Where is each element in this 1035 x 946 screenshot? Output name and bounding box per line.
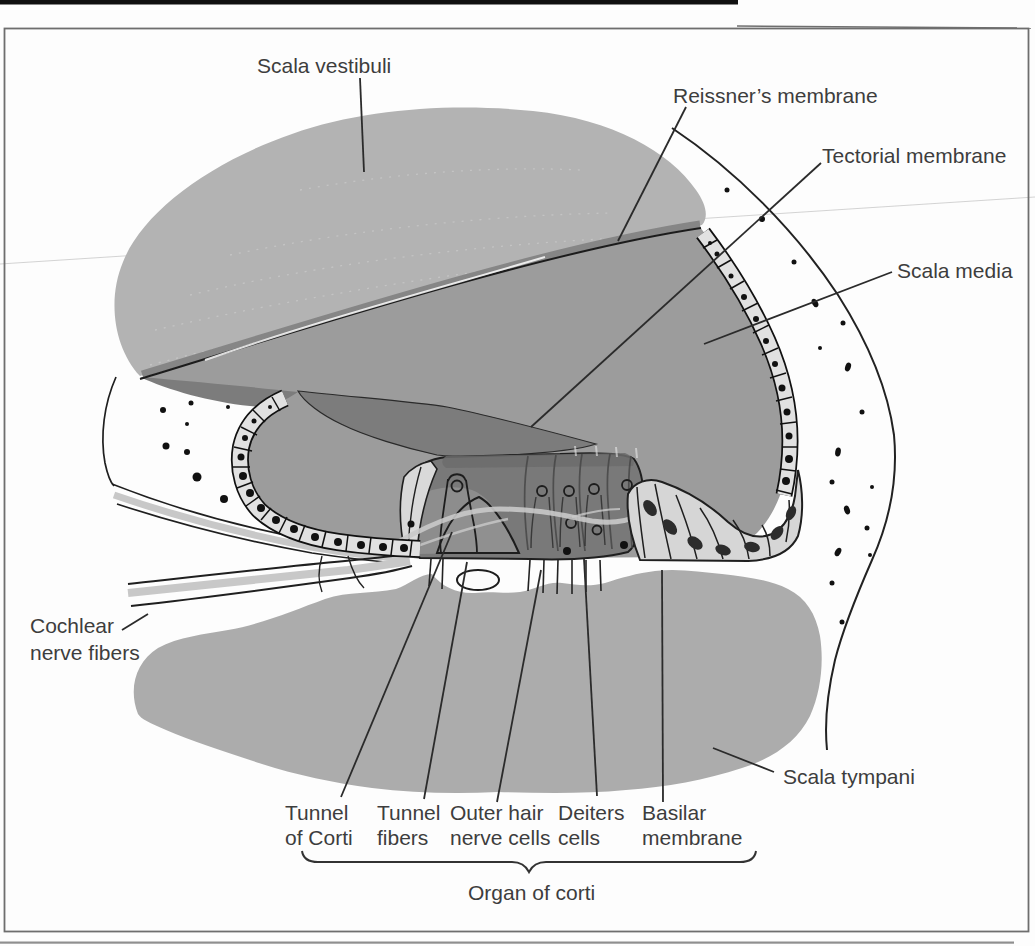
label-tunnel-of-corti-line1: Tunnel: [285, 801, 348, 824]
label-tunnel-fibers-line2: fibers: [377, 826, 428, 849]
label-basilar-line2: membrane: [642, 826, 742, 849]
nucleus-dot: [189, 401, 194, 406]
nucleus-dot: [185, 422, 189, 426]
nucleus-dot: [184, 449, 190, 455]
cell-nucleus-dot: [772, 361, 778, 367]
stereocilia-line: [616, 447, 617, 457]
foot-line: [528, 560, 530, 591]
cell-nucleus-dot: [357, 541, 365, 549]
cell-nucleus-dot: [782, 477, 790, 485]
nucleus-dot: [865, 526, 870, 531]
cell-nucleus-dot: [379, 543, 387, 551]
label-tunnel-fibers-line1: Tunnel: [377, 801, 440, 824]
cell-nucleus-dot: [290, 525, 298, 533]
cell-nucleus-dot: [400, 544, 408, 552]
nucleus-dot: [818, 346, 822, 350]
organ-of-corti-brace: [302, 851, 756, 872]
cell-nucleus-dot: [257, 504, 265, 512]
left-bone-nuclei: [160, 401, 230, 504]
label-scala-tympani: Scala tympani: [783, 765, 915, 788]
nucleus-dot: [868, 553, 872, 557]
nucleus-oval: [834, 447, 841, 457]
scan-edge-top: [0, 0, 738, 5]
cell-nucleus-dot: [239, 472, 247, 480]
cell-nucleus-dot: [272, 516, 280, 524]
cell-nucleus-dot: [708, 241, 712, 245]
organ-of-corti-structure: [398, 446, 643, 559]
cell-nucleus-dot: [563, 547, 571, 555]
cell-nucleus-dot: [741, 294, 747, 300]
figure-page: Scala vestibuli Reissner’s membrane Tect…: [0, 0, 1035, 946]
nucleus-oval: [844, 362, 852, 372]
leader-basilar: [662, 570, 663, 802]
cell-nucleus-dot: [785, 455, 793, 463]
label-scala-media: Scala media: [897, 259, 1013, 282]
cell-nucleus-dot: [408, 521, 415, 528]
cochlea-diagram: Scala vestibuli Reissner’s membrane Tect…: [0, 0, 1035, 946]
nucleus-oval: [833, 547, 842, 558]
nucleus-dot: [226, 405, 230, 409]
cell-nucleus-dot: [246, 489, 254, 497]
scan-edge-bottom: [0, 942, 1014, 944]
nucleus-dot: [830, 581, 835, 586]
nucleus-oval: [843, 505, 851, 515]
cell-nucleus-dot: [268, 405, 272, 409]
label-outer-hair-line1: Outer hair: [450, 801, 543, 824]
stereocilia-line: [575, 446, 576, 456]
stereocilia-line: [636, 448, 637, 458]
label-scala-vestibuli: Scala vestibuli: [257, 54, 391, 77]
cell-nucleus-dot: [784, 409, 791, 416]
nucleus-dot: [193, 473, 202, 482]
stereocilia-line: [596, 446, 597, 456]
cell-nucleus-dot: [334, 538, 342, 546]
foot-line: [600, 560, 601, 591]
cell-nucleus-dot: [786, 433, 793, 440]
scala-tympani-shape: [134, 570, 822, 793]
label-tunnel-of-corti-line2: of Corti: [285, 826, 353, 849]
lamina-left-boundary: [103, 377, 116, 486]
cell-nucleus-dot: [238, 454, 245, 461]
nucleus-dot: [860, 410, 865, 415]
label-reissners-membrane: Reissner’s membrane: [673, 84, 878, 107]
label-deiters-line1: Deiters: [558, 801, 625, 824]
cell-nucleus-dot: [620, 541, 628, 549]
cell-nucleus-dot: [729, 274, 734, 279]
nucleus-dot: [792, 260, 797, 265]
cell-nucleus-dot: [252, 419, 257, 424]
nucleus-dot: [163, 443, 170, 450]
label-organ-of-corti: Organ of corti: [468, 881, 595, 904]
foot-line: [442, 559, 443, 589]
label-outer-hair-line2: nerve cells: [450, 826, 550, 849]
foot-line: [543, 560, 544, 593]
nucleus-dot: [725, 188, 730, 193]
nucleus-dot: [840, 620, 845, 625]
cell-nucleus-dot: [779, 385, 786, 392]
label-deiters-line2: cells: [558, 826, 600, 849]
cell-nucleus-dot: [763, 338, 769, 344]
cell-nucleus-dot: [311, 533, 319, 541]
nucleus-dot: [870, 485, 874, 489]
nucleus-dot: [841, 321, 846, 326]
nucleus-dot: [160, 407, 166, 413]
label-tectorial-membrane: Tectorial membrane: [822, 144, 1006, 167]
label-basilar-line1: Basilar: [642, 801, 706, 824]
foot-line: [557, 560, 558, 594]
leader-cochlear-nerve: [122, 614, 148, 630]
nucleus-dot: [220, 495, 228, 503]
label-cochlear-line2: nerve fibers: [30, 641, 140, 664]
cell-nucleus-dot: [242, 435, 248, 441]
nucleus-dot: [830, 480, 835, 485]
label-cochlear-line1: Cochlear: [30, 614, 114, 637]
cell-nucleus-dot: [753, 316, 759, 322]
